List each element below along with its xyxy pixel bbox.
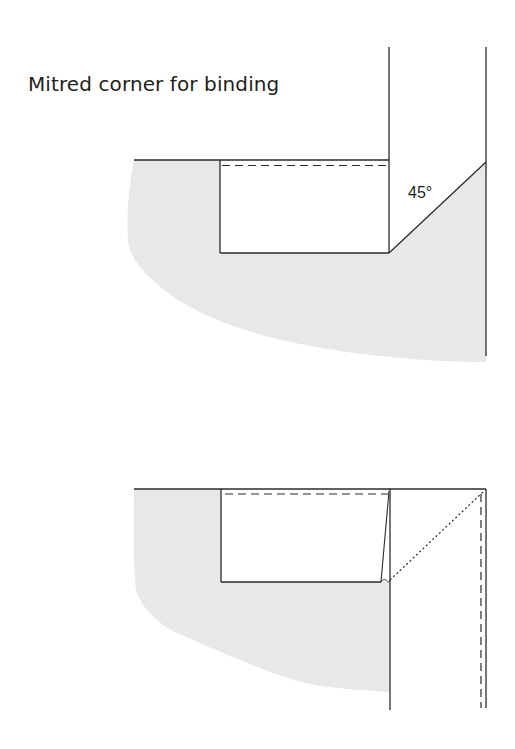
illustration-canvas xyxy=(0,0,515,749)
step-2-diagram xyxy=(134,489,486,710)
angle-label: 45° xyxy=(408,184,432,202)
binding-flap xyxy=(220,160,389,253)
dotted-fold-diagonal xyxy=(390,492,483,580)
step-1-diagram xyxy=(127,47,486,362)
binding-flap xyxy=(221,489,389,582)
